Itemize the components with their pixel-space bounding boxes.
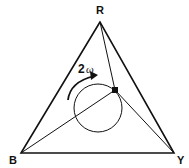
rotation-arrow-icon bbox=[68, 76, 94, 100]
color-triangle-diagram: 2 ω R B Y bbox=[0, 0, 189, 168]
vertex-label-r: R bbox=[96, 4, 104, 16]
vertex-label-b: B bbox=[9, 154, 17, 166]
triangle-outline bbox=[21, 22, 174, 153]
moving-point bbox=[112, 87, 118, 93]
rotation-rate-number: 2 bbox=[78, 62, 85, 76]
line-r-to-point bbox=[100, 22, 115, 90]
rotation-rate-omega: ω bbox=[86, 63, 94, 75]
vertex-label-y: Y bbox=[177, 154, 185, 166]
